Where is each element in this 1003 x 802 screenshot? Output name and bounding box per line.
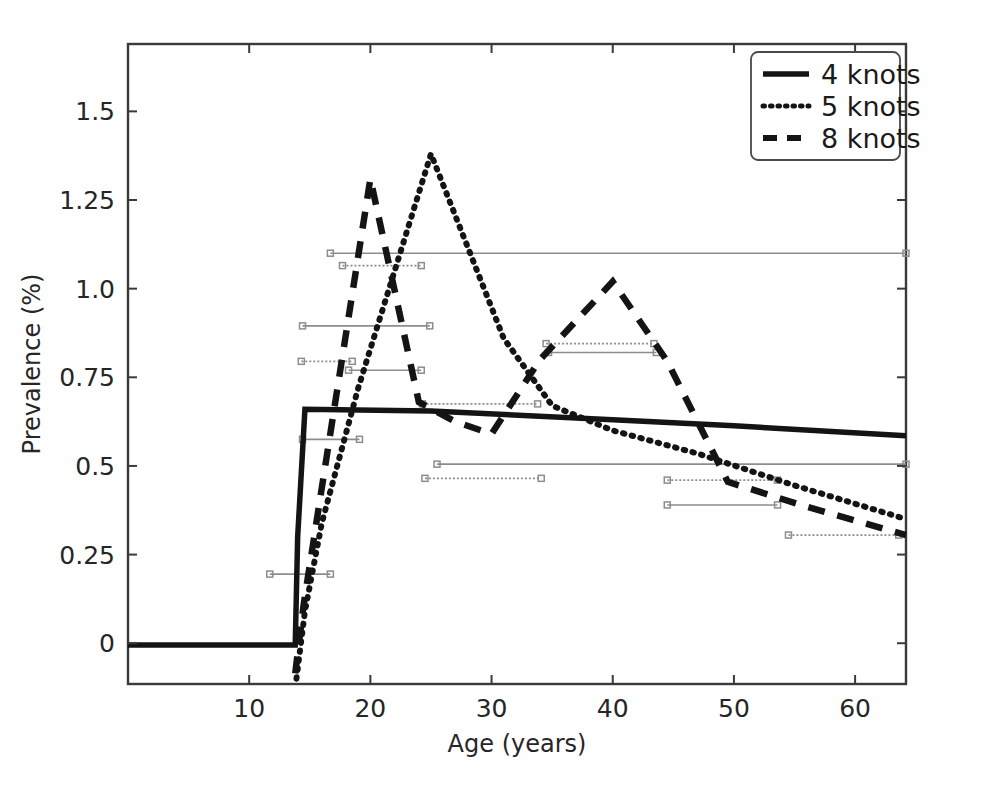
x-tick-label: 10 <box>233 694 265 723</box>
legend[interactable]: 4 knots5 knots8 knots <box>751 52 921 160</box>
y-tick-label: 0 <box>99 629 115 658</box>
y-tick-label: 1.0 <box>75 275 115 304</box>
x-axis-label: Age (years) <box>448 730 587 758</box>
prevalence-vs-age-line-chart: 102030405060 00.250.50.751.01.251.5 4 kn… <box>0 0 1003 802</box>
legend-label: 8 knots <box>821 123 921 154</box>
y-tick-label: 1.25 <box>59 186 115 215</box>
x-tick-label: 50 <box>718 694 750 723</box>
y-axis-label: Prevalence (%) <box>18 274 46 455</box>
x-tick-label: 40 <box>597 694 629 723</box>
x-tick-label: 20 <box>354 694 386 723</box>
legend-label: 5 knots <box>821 91 921 122</box>
y-tick-label: 0.25 <box>59 541 115 570</box>
x-tick-label: 60 <box>839 694 871 723</box>
x-tick-label: 30 <box>476 694 508 723</box>
y-tick-label: 1.5 <box>75 97 115 126</box>
chart-figure: 102030405060 00.250.50.751.01.251.5 4 kn… <box>0 0 1003 802</box>
y-tick-label: 0.5 <box>75 452 115 481</box>
y-tick-label: 0.75 <box>59 363 115 392</box>
legend-label: 4 knots <box>821 59 921 90</box>
